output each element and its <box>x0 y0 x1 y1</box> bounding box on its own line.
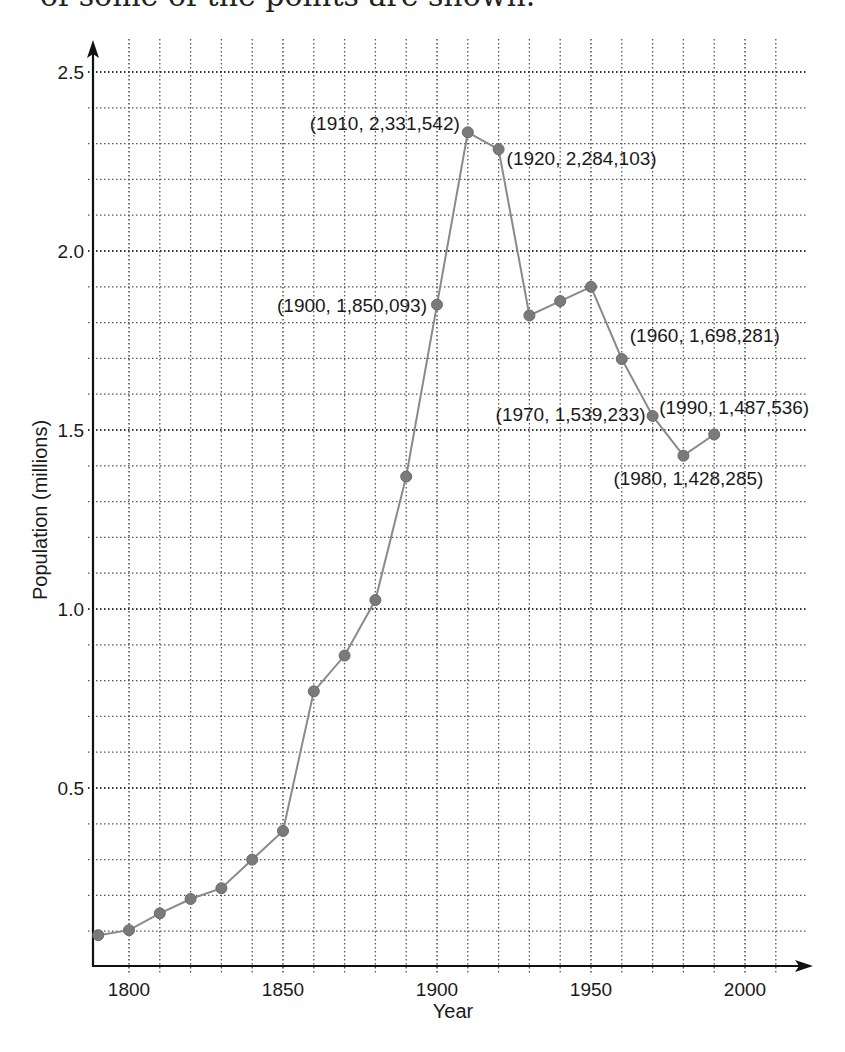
point-annotation: (1900, 1,850,093) <box>277 295 427 316</box>
point-annotation: (1920, 2,284,103) <box>507 148 657 169</box>
data-point-marker <box>524 310 535 321</box>
data-point-marker <box>339 650 350 661</box>
y-tick-label: 0.5 <box>58 778 84 799</box>
data-point-marker <box>647 410 658 421</box>
point-annotation: (1960, 1,698,281) <box>630 325 780 346</box>
y-axis-title: Population (millions) <box>29 420 51 600</box>
data-point-marker <box>678 450 689 461</box>
y-tick-labels: 0.51.01.52.02.5 <box>58 62 84 799</box>
data-point-marker <box>462 127 473 138</box>
data-point-marker <box>401 471 412 482</box>
data-point-marker <box>432 299 443 310</box>
data-point-marker <box>247 854 258 865</box>
x-tick-label: 1850 <box>262 979 304 1000</box>
y-tick-label: 2.0 <box>58 241 84 262</box>
point-annotations: (1900, 1,850,093)(1910, 2,331,542)(1920,… <box>277 113 809 488</box>
data-point-marker <box>709 429 720 440</box>
point-annotation: (1990, 1,487,536) <box>659 397 809 418</box>
data-point-marker <box>308 686 319 697</box>
data-point-marker <box>154 908 165 919</box>
data-point-marker <box>93 930 104 941</box>
x-tick-label: 1800 <box>108 979 150 1000</box>
data-point-marker <box>616 354 627 365</box>
data-point-marker <box>493 144 504 155</box>
point-annotation: (1980, 1,428,285) <box>613 468 763 489</box>
data-point-marker <box>370 595 381 606</box>
series-line <box>98 132 714 935</box>
point-annotation: (1970, 1,539,233) <box>496 404 646 425</box>
population-line-chart: 0.51.01.52.02.5 18001850190019502000 Yea… <box>0 0 845 1052</box>
x-tick-label: 1900 <box>416 979 458 1000</box>
data-point-marker <box>216 883 227 894</box>
data-point-marker <box>278 825 289 836</box>
data-point-marker <box>185 893 196 904</box>
data-point-marker <box>586 281 597 292</box>
y-tick-label: 1.5 <box>58 420 84 441</box>
grid-lines <box>88 39 806 974</box>
x-tick-labels: 18001850190019502000 <box>108 979 766 1000</box>
data-point-marker <box>555 296 566 307</box>
x-tick-label: 1950 <box>570 979 612 1000</box>
y-tick-label: 2.5 <box>58 62 84 83</box>
data-series <box>93 127 720 941</box>
y-tick-label: 1.0 <box>58 599 84 620</box>
data-point-marker <box>124 925 135 936</box>
point-annotation: (1910, 2,331,542) <box>310 113 460 134</box>
x-axis-title: Year <box>433 1000 474 1022</box>
x-tick-label: 2000 <box>724 979 766 1000</box>
